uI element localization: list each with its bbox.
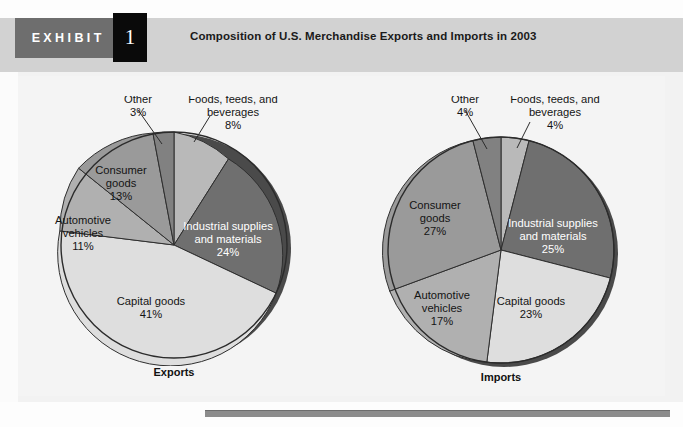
label-industrial-exports-value: 24%	[217, 246, 239, 258]
exhibit-label: EXHIBIT	[15, 18, 118, 58]
label-consumer-imports-value: 27%	[424, 225, 446, 237]
label-automotive-imports-value: 17%	[431, 315, 453, 327]
label-other-exports-value: 3%	[130, 106, 146, 118]
label-consumer-exports-name-1: Consumer	[95, 164, 147, 176]
label-consumer-exports-name-2: goods	[106, 177, 137, 189]
label-other-exports-name: Other	[124, 96, 152, 105]
label-industrial-exports-name-2: and materials	[194, 233, 262, 245]
label-foods-imports-value: 4%	[547, 119, 563, 131]
label-foods-imports-name-2: beverages	[529, 106, 582, 118]
panel-left-margin	[0, 72, 18, 402]
page-title: Composition of U.S. Merchandise Exports …	[190, 30, 537, 42]
exhibit-number: 1	[113, 13, 147, 62]
imports-slices	[382, 137, 613, 363]
exhibit-page: EXHIBIT 1 Composition of U.S. Merchandis…	[0, 0, 683, 427]
label-consumer-imports-name-1: Consumer	[409, 199, 461, 211]
exports-pie-chart[interactable]: Other 3% Foods, feeds, and beverages 8% …	[38, 96, 328, 366]
footer-rule	[205, 410, 670, 417]
label-foods-imports-name-1: Foods, feeds, and	[510, 96, 600, 105]
label-other-imports-name: Other	[451, 96, 479, 105]
imports-pie-chart[interactable]: Other 4% Foods, feeds, and beverages 4% …	[365, 96, 655, 376]
label-industrial-imports-name-1: Industrial supplies	[508, 217, 598, 229]
label-other-imports-value: 4%	[457, 106, 473, 118]
exhibit-number-badge: 1	[113, 13, 147, 62]
label-foods-exports-name-1: Foods, feeds, and	[188, 96, 278, 105]
label-automotive-exports-value: 11%	[72, 240, 94, 252]
label-automotive-exports-name-1: Automotive	[55, 214, 111, 226]
label-capital-exports-value: 41%	[140, 308, 162, 320]
label-foods-exports-name-2: beverages	[207, 106, 260, 118]
label-industrial-imports-name-2: and materials	[519, 230, 587, 242]
label-foods-exports-value: 8%	[225, 119, 241, 131]
label-consumer-exports-value: 13%	[110, 190, 132, 202]
label-capital-exports-name: Capital goods	[117, 295, 186, 307]
label-automotive-exports-name-2: vehicles	[63, 227, 104, 239]
label-industrial-exports-name-1: Industrial supplies	[183, 220, 273, 232]
label-capital-imports-name: Capital goods	[497, 295, 566, 307]
label-capital-imports-value: 23%	[520, 308, 542, 320]
exhibit-badge: EXHIBIT	[15, 18, 118, 58]
label-automotive-imports-name-2: vehicles	[422, 302, 463, 314]
label-industrial-imports-value: 25%	[542, 243, 564, 255]
label-automotive-imports-name-1: Automotive	[414, 289, 470, 301]
label-consumer-imports-name-2: goods	[420, 212, 451, 224]
